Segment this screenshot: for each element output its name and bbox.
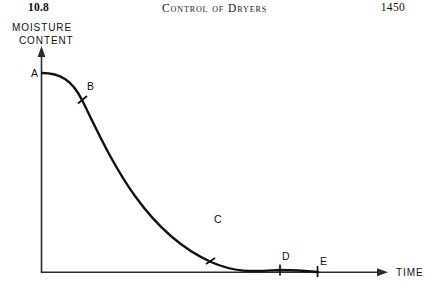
point-label-d: D bbox=[282, 250, 290, 262]
running-head: 10.8 Control of Dryers 1450 bbox=[0, 0, 429, 20]
y-axis bbox=[38, 46, 46, 272]
running-title: Control of Dryers bbox=[0, 2, 429, 14]
point-label-c: C bbox=[214, 213, 222, 225]
drying-curve-figure: MOISTURE CONTENT TIME A B C bbox=[0, 18, 429, 291]
x-axis-label: TIME bbox=[396, 267, 424, 278]
point-label-e: E bbox=[320, 255, 327, 267]
point-label-a: A bbox=[31, 67, 38, 79]
moisture-content-axis-arrow bbox=[38, 46, 46, 57]
drying-curve-line bbox=[42, 73, 318, 272]
y-axis-label-line2: CONTENT bbox=[19, 35, 74, 46]
time-axis-arrow bbox=[377, 268, 388, 276]
y-axis-label-line1: MOISTURE bbox=[12, 22, 72, 33]
drying-curve-chart: MOISTURE CONTENT TIME A B C bbox=[0, 18, 429, 291]
point-label-b: B bbox=[87, 80, 94, 92]
x-axis bbox=[41, 268, 388, 276]
page-number: 1450 bbox=[381, 1, 405, 13]
